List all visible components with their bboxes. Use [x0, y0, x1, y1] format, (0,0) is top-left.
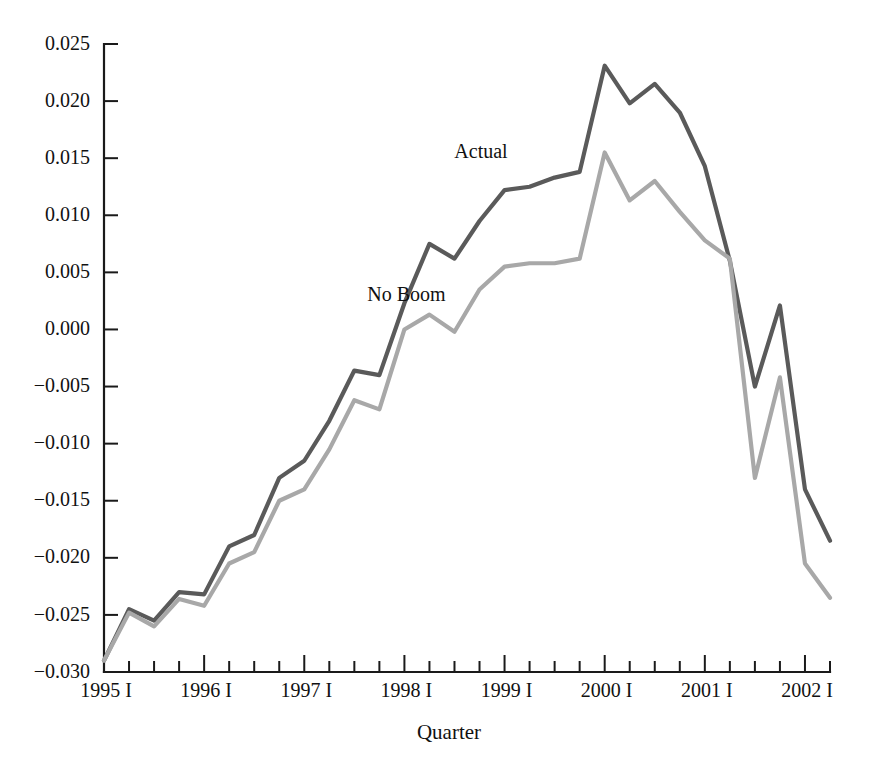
x-axis-tick-labels: 1995 I1996 I1997 I1998 I1999 I2000 I2001… — [80, 679, 833, 701]
x-tick-label: 1995 I — [80, 679, 132, 701]
y-tick-label: 0.020 — [45, 89, 90, 111]
x-tick-label: 1997 I — [280, 679, 332, 701]
series-label-no-boom: No Boom — [367, 283, 446, 305]
x-tick-label: 1999 I — [481, 679, 533, 701]
chart-figure: 0.0250.0200.0150.0100.0050.000−0.005−0.0… — [0, 0, 875, 779]
x-tick-label: 2000 I — [581, 679, 633, 701]
y-tick-label: −0.020 — [34, 545, 90, 567]
x-axis-title: Quarter — [417, 720, 481, 744]
y-tick-label: 0.025 — [45, 32, 90, 54]
x-tick-label: 2001 I — [681, 679, 733, 701]
y-axis-tick-labels: 0.0250.0200.0150.0100.0050.000−0.005−0.0… — [34, 32, 90, 682]
y-tick-label: 0.005 — [45, 260, 90, 282]
y-tick-label: 0.015 — [45, 146, 90, 168]
y-tick-label: 0.000 — [45, 317, 90, 339]
line-chart: 0.0250.0200.0150.0100.0050.000−0.005−0.0… — [0, 0, 875, 779]
y-tick-label: −0.005 — [34, 374, 90, 396]
x-tick-label: 1996 I — [180, 679, 232, 701]
y-tick-label: −0.010 — [34, 431, 90, 453]
y-tick-label: −0.015 — [34, 488, 90, 510]
series-label-actual: Actual — [454, 140, 508, 162]
y-axis-tick-marks — [104, 44, 118, 672]
y-tick-label: 0.010 — [45, 203, 90, 225]
x-tick-label: 1998 I — [381, 679, 433, 701]
x-tick-label: 2002 I — [781, 679, 833, 701]
x-axis-tick-marks — [104, 655, 830, 672]
y-tick-label: −0.025 — [34, 603, 90, 625]
